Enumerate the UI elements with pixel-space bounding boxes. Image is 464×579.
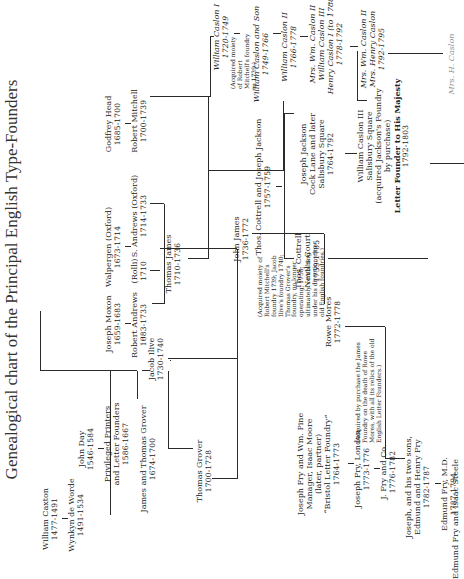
node-dates: 1772-1778 (334, 297, 342, 348)
connector (168, 371, 169, 449)
connector (385, 327, 386, 459)
node-dates: 1491-1534 (77, 478, 85, 551)
connector (168, 448, 193, 449)
note-mores: (Acquired by purchase the James Foundry … (355, 335, 383, 443)
connector (284, 114, 285, 259)
node-dates: 1710 (140, 259, 148, 284)
node-fry-sons: Joseph, and his two sons, Edmund and Hen… (405, 436, 431, 538)
node-dates: 1700-1728 (205, 440, 213, 502)
connector (137, 371, 138, 399)
node-dates: 1736-1772 (242, 216, 250, 261)
connector (110, 371, 111, 515)
node-dates: 1759-1785 (313, 233, 321, 289)
node-dates: 1776-1782 (389, 444, 397, 499)
connector (300, 36, 308, 37)
node-dates: 1683-1733 (140, 292, 148, 358)
node-andrews: Robert Andrews 1683-1733 (131, 292, 148, 358)
node-dates: 1477-1491 (51, 488, 59, 550)
connector (168, 358, 237, 359)
node-day: John Day 1546-1584 (78, 428, 95, 471)
node-dates: 1792-1795 (378, 10, 386, 89)
node-cottrell-jackson: Thos. Cottrell and Joseph Jackson 1757-1… (255, 119, 272, 256)
node-caslon3: William Caslon III Salisbury Square (acq… (357, 79, 410, 214)
connector (188, 258, 208, 259)
node-privileged: Privileged Printers and Letter Founders … (104, 402, 130, 485)
node-dates: 1766-1778 (290, 12, 298, 82)
connector (284, 258, 294, 259)
node-ilive: Jacob Ilive 1730-1740 (148, 338, 165, 381)
chart-title: Genealogical chart of the Principal Engl… (2, 0, 22, 559)
node-walpergen: Walpergen (Oxford) 1673-1714 (105, 207, 122, 287)
connector (430, 163, 464, 164)
node-grover: James and Thomas Grover 1674-1700 (140, 406, 157, 513)
node-caxton: William Caxton 1477-1491 (42, 488, 59, 550)
node-dates: 1546-1584 (87, 428, 95, 471)
node-dates: 1773-1776 (363, 430, 371, 508)
node-jackson: Joseph Jackson Cock Lane and later Salis… (300, 113, 335, 195)
connector (150, 270, 160, 271)
connector (237, 249, 238, 479)
node-fry-london: Joseph Fry, London 1773-1776 (354, 430, 371, 508)
node-head: Godfrey Head 1685-1700 (105, 96, 122, 153)
connector (385, 458, 405, 459)
node-dates: 1792-1803 (402, 79, 410, 214)
node-fry-pine: Joseph Fry and Wm. Pine Manager, Isaac M… (297, 413, 341, 515)
connector (212, 478, 237, 479)
connector (141, 337, 145, 338)
node-dates: 1782-1787 (423, 436, 431, 538)
node-s-andrews: S. Andrews (Oxford) 1714-1733 (131, 175, 148, 257)
node-dates: 1673-1714 (114, 207, 122, 287)
node-dates: 1764-1773 (333, 413, 341, 515)
node-dates: 1710-1736 (174, 235, 182, 294)
connector (357, 51, 358, 101)
node-moxon: Joseph Moxon 1659-1683 (105, 295, 122, 352)
node-thomas-grover: Thomas Grover 1700-1728 (196, 440, 213, 502)
connector (357, 100, 367, 101)
connector (40, 311, 41, 371)
node-name: Edmund Fry and Isaac Steele (452, 459, 461, 579)
node-dates: 1700-1739 (140, 89, 148, 153)
node-dates: 1586-1667 (122, 402, 130, 485)
node-mitchell: Robert Mitchell 1700-1739 (131, 89, 148, 153)
node-dates: 1674-1700 (149, 406, 157, 513)
node-dates: 1764-1792 (327, 113, 335, 195)
node-dates: 1685-1700 (114, 96, 122, 153)
node-rolli: (Rolli) 1710 (131, 259, 148, 284)
connector (152, 303, 164, 304)
node-mrs-caslon2: Mrs. Wm. Caslon II Mrs. Henry Caslon 179… (360, 10, 386, 89)
connector (328, 258, 428, 259)
node-cottrell: Thos. Cottrell Nevil's Court 1759-1785 (295, 233, 321, 289)
node-j-fry: J. Fry and Co. 1776-1782 (380, 444, 397, 499)
node-caslon2: William Caslon II 1766-1778 (281, 12, 298, 82)
connector (350, 46, 358, 47)
connector (185, 248, 189, 249)
connector (168, 408, 169, 409)
node-dates: 1778-1792 (336, 0, 344, 94)
connector (234, 33, 240, 34)
connector (150, 96, 210, 97)
node-mrs-h-caslon: Mrs. H. Caslon (448, 34, 457, 95)
connector (208, 97, 209, 259)
node-caslon1: William Caslon I 1720-1749 (213, 4, 230, 70)
connector (210, 37, 211, 97)
connector (40, 370, 137, 371)
node-dates: 1730-1740 (157, 338, 165, 381)
connector (324, 234, 325, 304)
connector (345, 326, 385, 327)
node-worde: Wynkyn de Worde 1491-1534 (68, 478, 85, 551)
node-john-james: John James 1736-1772 (233, 216, 250, 261)
node-dates: 1714-1733 (140, 175, 148, 257)
node-fry-steele: Edmund Fry and Isaac Steele (452, 459, 461, 579)
node-rowe-mores: Rowe Mores 1772-1778 (325, 297, 342, 348)
connector (388, 53, 443, 54)
connector (276, 186, 282, 187)
node-name: Mrs. H. Caslon (448, 34, 457, 95)
connector (284, 113, 294, 114)
node-caslon-son: William Caslon and Son 1749-1766 (253, 6, 270, 102)
connector (150, 203, 164, 204)
node-thomas-james: Thomas James 1710-1736 (165, 235, 182, 294)
node-dates: 1757-1759 (264, 119, 272, 256)
connector (210, 36, 214, 37)
connector (170, 360, 171, 361)
